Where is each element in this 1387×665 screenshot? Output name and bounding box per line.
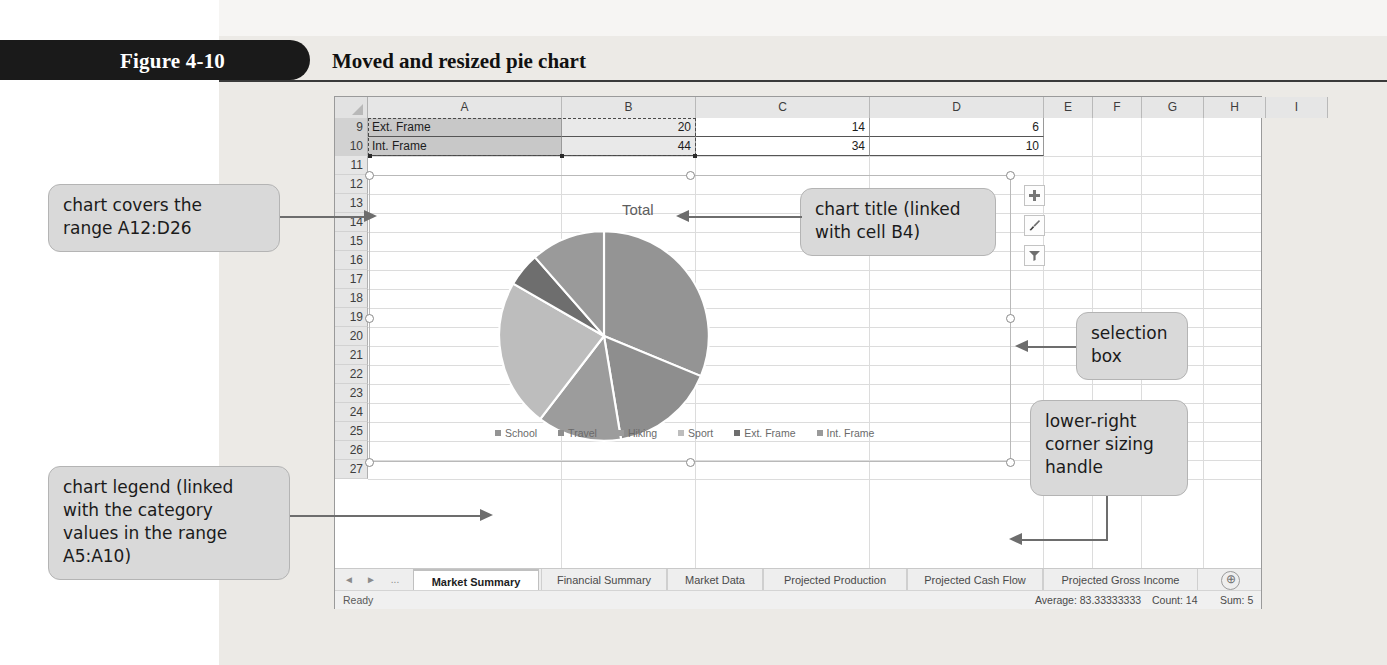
tab-nav-more[interactable]: ... — [387, 572, 403, 588]
tab-nav-next[interactable]: ► — [363, 572, 379, 588]
sizing-handle-middle-left[interactable] — [365, 314, 374, 323]
sheet-tab-projected-cash-flow[interactable]: Projected Cash Flow — [907, 569, 1043, 591]
leader-line-sizing-handle-horizontal — [1022, 539, 1108, 541]
chart-title[interactable]: Total — [622, 201, 654, 218]
sheet-tab-bar: ◄ ► ... Market Summary Financial Summary… — [335, 568, 1261, 590]
leader-line-sizing-handle-vertical — [1106, 496, 1108, 540]
legend-swatch-icon — [817, 430, 823, 436]
sizing-handle-top-right[interactable] — [1006, 171, 1015, 180]
sheet-tab-market-data[interactable]: Market Data — [667, 569, 763, 591]
leader-line-chart-legend — [290, 515, 488, 517]
sheet-tab-market-summary[interactable]: Market Summary — [413, 569, 539, 591]
leader-arrow-chart-range — [364, 210, 377, 222]
figure-header: Figure 4-10 Moved and resized pie chart — [0, 40, 1387, 80]
sheet-tab-projected-production[interactable]: Projected Production — [763, 569, 907, 591]
legend-swatch-icon — [495, 430, 501, 436]
legend-item-travel[interactable]: Travel — [558, 427, 597, 439]
plus-icon — [1028, 189, 1041, 202]
legend-label: Hiking — [628, 427, 657, 439]
funnel-icon — [1028, 249, 1041, 262]
add-sheet-button[interactable]: ⊕ — [1221, 571, 1240, 590]
status-average[interactable]: Average: 83.33333333 — [1035, 594, 1141, 606]
legend-item-int-frame[interactable]: Int. Frame — [817, 427, 875, 439]
sheet-tab-projected-gross-income[interactable]: Projected Gross Income — [1043, 569, 1198, 591]
sizing-handle-bottom-left[interactable] — [365, 458, 374, 467]
pie-svg — [497, 229, 711, 443]
figure-caption: Moved and resized pie chart — [332, 49, 586, 74]
status-sum[interactable]: Sum: 5 — [1220, 594, 1253, 606]
pie-slices — [499, 231, 709, 441]
callout-selection-box: selectionbox — [1076, 312, 1188, 380]
column-header-i[interactable]: I — [1266, 97, 1328, 118]
status-count[interactable]: Count: 14 — [1152, 594, 1198, 606]
sizing-handle-top-center[interactable] — [686, 171, 695, 180]
chart-elements-button[interactable] — [1024, 185, 1045, 206]
pie-plot-area[interactable] — [497, 229, 711, 443]
chart-legend[interactable]: SchoolTravelHikingSportExt. FrameInt. Fr… — [495, 427, 874, 439]
sizing-handle-bottom-center[interactable] — [686, 458, 695, 467]
callout-chart-title: chart title (linkedwith cell B4) — [800, 188, 996, 256]
leader-arrow-chart-legend — [480, 509, 493, 521]
sheet-tab-financial-summary[interactable]: Financial Summary — [541, 569, 667, 591]
legend-swatch-icon — [734, 430, 740, 436]
leader-arrow-sizing-handle — [1009, 533, 1022, 545]
leader-arrow-selection-box — [1015, 340, 1028, 352]
callout-chart-legend: chart legend (linkedwith the categoryval… — [48, 466, 290, 580]
leader-arrow-chart-title — [676, 210, 689, 222]
legend-item-school[interactable]: School — [495, 427, 537, 439]
chart-filters-button[interactable] — [1024, 245, 1045, 266]
legend-label: Ext. Frame — [744, 427, 795, 439]
leader-line-chart-title — [688, 216, 802, 218]
leader-line-selection-box — [1028, 346, 1076, 348]
status-mode: Ready — [343, 594, 373, 606]
chart-styles-button[interactable] — [1024, 215, 1045, 236]
callout-chart-range: chart covers therange A12:D26 — [48, 184, 280, 252]
legend-swatch-icon — [678, 430, 684, 436]
legend-label: Travel — [568, 427, 597, 439]
sizing-handle-top-left[interactable] — [365, 171, 374, 180]
figure-number: Figure 4-10 — [120, 49, 225, 74]
legend-swatch-icon — [558, 430, 564, 436]
legend-item-sport[interactable]: Sport — [678, 427, 713, 439]
tab-nav-previous[interactable]: ◄ — [341, 572, 357, 588]
legend-item-hiking[interactable]: Hiking — [618, 427, 657, 439]
figure-divider-rule — [219, 80, 1387, 82]
legend-swatch-icon — [618, 430, 624, 436]
sizing-handle-middle-right[interactable] — [1006, 314, 1015, 323]
sizing-handle-bottom-right[interactable] — [1006, 458, 1015, 467]
legend-item-ext-frame[interactable]: Ext. Frame — [734, 427, 795, 439]
status-bar: Ready Average: 83.33333333 Count: 14 Sum… — [335, 590, 1261, 609]
page-top-band — [219, 0, 1387, 36]
brush-icon — [1028, 219, 1041, 232]
legend-label: Int. Frame — [827, 427, 875, 439]
leader-line-chart-range — [280, 216, 372, 218]
callout-sizing-handle: lower-rightcorner sizinghandle — [1030, 400, 1188, 496]
legend-label: School — [505, 427, 537, 439]
legend-label: Sport — [688, 427, 713, 439]
